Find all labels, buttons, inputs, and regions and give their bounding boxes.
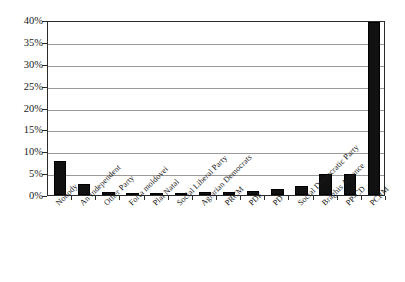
y-axis-tick-label: 40% [0, 16, 43, 26]
x-axis-tick-mark [95, 196, 96, 200]
y-axis-tick-label: 35% [0, 38, 43, 48]
bar-chart: 0%5%10%15%20%25%30%35%40% NobodyAn Indep… [0, 0, 405, 282]
x-axis-tick-mark [119, 196, 120, 200]
x-axis-tick-mark [264, 196, 265, 200]
bar [368, 22, 381, 195]
x-axis-tick-mark [288, 196, 289, 200]
x-axis-tick-mark [216, 196, 217, 200]
y-axis-tick-label: 10% [0, 147, 43, 157]
y-axis-tick-label: 15% [0, 125, 43, 135]
x-axis-tick-mark [240, 196, 241, 200]
y-axis-tick-label: 25% [0, 82, 43, 92]
y-axis-tick-mark [42, 196, 47, 197]
y-axis-tick-label: 0% [0, 191, 43, 201]
y-axis-tick-label: 5% [0, 169, 43, 179]
x-axis-tick-mark [385, 196, 386, 200]
x-axis-tick-mark [71, 196, 72, 200]
y-axis-tick-label: 20% [0, 104, 43, 114]
y-axis-tick-label: 30% [0, 60, 43, 70]
